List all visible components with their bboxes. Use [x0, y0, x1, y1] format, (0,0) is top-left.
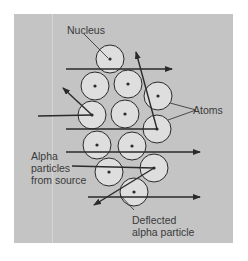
deflected-label-line1: Deflected: [132, 214, 176, 226]
nucleus-dot: [156, 94, 159, 97]
nucleus-dot: [108, 57, 111, 60]
nucleus-dot: [95, 143, 98, 146]
nucleus-dot: [123, 112, 126, 115]
alpha-label-line2: particles: [31, 162, 70, 174]
nucleus-dot: [132, 190, 135, 193]
nucleus-dot: [130, 144, 133, 147]
nucleus-dot: [126, 82, 129, 85]
rutherford-scattering-diagram: [0, 0, 248, 261]
nucleus-dot: [93, 84, 96, 87]
nucleus-dot: [107, 170, 110, 173]
deflected-label-line2: alpha particle: [132, 226, 194, 238]
nucleus-label: Nucleus: [67, 24, 105, 36]
atoms-label: Atoms: [193, 104, 223, 116]
alpha-label-line1: Alpha: [31, 150, 58, 162]
alpha-label-line3: from source: [31, 174, 86, 186]
atoms-pointer-line-lower: [168, 110, 196, 120]
alpha-path-incoming-backscatter: [38, 115, 92, 116]
